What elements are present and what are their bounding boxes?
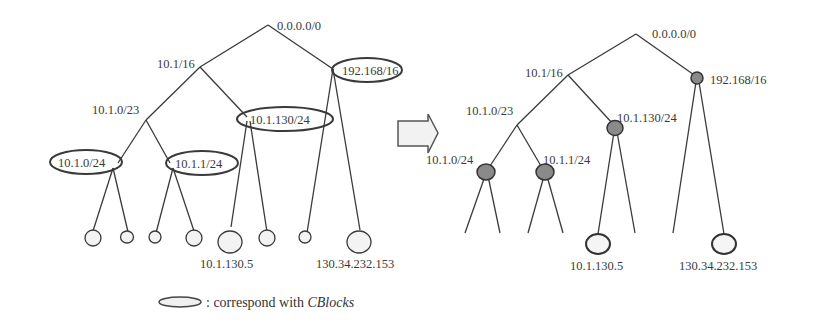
label-leaf-130-34-232-153: 130.34.232.153 — [679, 259, 757, 273]
leaf-node-130-34-232-153 — [347, 231, 371, 253]
label-10-1-130-24: 10.1.130/24 — [250, 113, 310, 127]
label-10-1-0-24: 10.1.0/24 — [58, 156, 106, 170]
label-leaf-10-1-130-5: 10.1.130.5 — [570, 259, 623, 273]
transform-arrow-icon — [398, 114, 438, 153]
leaf-node-130-34-232-153 — [712, 234, 736, 254]
leaf-node — [121, 231, 134, 243]
label-10-1-0-24: 10.1.0/24 — [426, 153, 474, 167]
leaf-node — [149, 231, 161, 243]
label-10-1-0-23: 10.1.0/23 — [92, 103, 139, 117]
leaf-node-10-1-130-5 — [586, 234, 610, 254]
leaf-node-10-1-130-5 — [218, 231, 242, 253]
legend-text: : correspond with CBlocks — [206, 295, 355, 310]
label-10-1-1-24: 10.1.1/24 — [543, 153, 591, 167]
label-10-1-130-24: 10.1.130/24 — [617, 111, 677, 125]
label-192-168-16: 192.168/16 — [710, 73, 767, 87]
label-10-1-16: 10.1/16 — [157, 57, 195, 71]
cblock-dot-192-168-16 — [691, 72, 703, 84]
leaf-node — [85, 230, 101, 246]
legend-ellipse-icon — [159, 297, 201, 307]
cblock-dot-10-1-0-24 — [477, 164, 495, 180]
leaf-node — [186, 230, 202, 246]
leaf-node — [299, 231, 311, 243]
label-leaf-130-34-232-153: 130.34.232.153 — [316, 257, 394, 271]
label-192-168-16: 192.168/16 — [342, 64, 399, 78]
left-tree: 0.0.0.0/0 10.1/16 192.168/16 10.1.0/23 1… — [50, 19, 402, 271]
label-root: 0.0.0.0/0 — [277, 19, 321, 33]
label-root: 0.0.0.0/0 — [652, 27, 696, 41]
label-10-1-0-23: 10.1.0/23 — [466, 104, 513, 118]
label-10-1-1-24: 10.1.1/24 — [175, 157, 223, 171]
right-tree: 0.0.0.0/0 10.1/16 192.168/16 10.1.0/23 1… — [426, 27, 767, 273]
legend: : correspond with CBlocks — [159, 295, 355, 310]
leaf-node — [259, 230, 275, 246]
label-10-1-16: 10.1/16 — [525, 66, 563, 80]
label-leaf-10-1-130-5: 10.1.130.5 — [200, 257, 253, 271]
prefix-tree-diagram: 0.0.0.0/0 10.1/16 192.168/16 10.1.0/23 1… — [0, 0, 818, 327]
